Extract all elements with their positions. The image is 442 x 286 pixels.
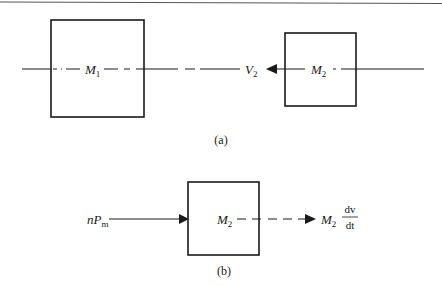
velocity-label: V2 <box>245 62 257 79</box>
mass-1-label: M1 <box>84 62 100 79</box>
caption-a: (a) <box>214 133 227 147</box>
mass-2-label-b: M2 <box>216 212 232 229</box>
derivative-numerator: dv <box>345 203 357 215</box>
velocity-arrow-icon <box>266 64 277 74</box>
output-arrow-icon <box>305 214 316 224</box>
mass-2-label: M2 <box>310 62 326 79</box>
caption-b: (b) <box>217 264 231 278</box>
top-rule <box>0 2 442 4</box>
collision-diagram: M1 V2 M2 (a) nPm M2 M2 dv dt (b) <box>0 0 442 286</box>
output-mass-label: M2 <box>320 212 336 229</box>
force-label: nPm <box>87 212 108 229</box>
derivative-denominator: dt <box>346 219 355 231</box>
panel-b: nPm M2 M2 dv dt (b) <box>87 182 358 278</box>
panel-a: M1 V2 M2 (a) <box>22 20 424 147</box>
